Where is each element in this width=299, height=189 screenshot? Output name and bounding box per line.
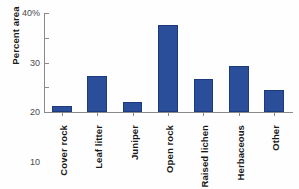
y-tick-mark: 10 — [45, 87, 49, 88]
x-tick-mark — [133, 113, 134, 116]
y-axis-title: Percent area — [10, 0, 21, 86]
y-tick-mark: 30 — [45, 38, 49, 39]
y-tick-label: 40% — [22, 8, 40, 18]
y-tick-label: 20 — [30, 107, 40, 117]
x-tick-mark — [203, 113, 204, 116]
y-tick-mark: 0 — [45, 112, 49, 113]
bar — [123, 102, 143, 112]
x-tick-label: Juniper — [129, 125, 140, 160]
x-tick-mark — [168, 113, 169, 116]
x-tick-label: Open rock — [164, 125, 175, 173]
y-tick-label: 30 — [30, 58, 40, 68]
bar — [194, 79, 214, 112]
bar — [52, 106, 72, 112]
x-tick-mark — [62, 113, 63, 116]
x-tick-mark — [97, 113, 98, 116]
x-tick-label: Leaf litter — [93, 125, 104, 169]
bar — [87, 76, 107, 112]
x-tick-mark — [239, 113, 240, 116]
x-tick-label: Other — [270, 125, 281, 151]
y-tick-mark: 40% — [45, 13, 49, 14]
x-tick-label: Raised lichen — [199, 125, 210, 188]
bar — [264, 90, 284, 112]
x-tick-label: Herbaceous — [235, 125, 246, 180]
bar — [229, 66, 249, 112]
y-tick-label: 10 — [30, 157, 40, 167]
x-tick-label: Cover rock — [58, 125, 69, 176]
plot-area: 010203040% Cover rockLeaf litterJuniperO… — [44, 13, 292, 112]
chart-title-clipped-strip — [0, 0, 299, 4]
bar — [158, 25, 178, 112]
bar-chart-figure: Percent area 010203040% Cover rockLeaf l… — [0, 0, 299, 189]
x-tick-mark — [274, 113, 275, 116]
y-tick-mark: 20 — [45, 63, 49, 64]
